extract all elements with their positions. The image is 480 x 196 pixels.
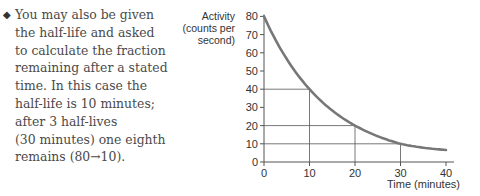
x-axis-title: Time (minutes)	[387, 178, 460, 190]
y-tick-label: 80	[246, 10, 258, 22]
decay-chart: 01020304050607080010203040	[0, 0, 480, 196]
y-tick-label: 20	[246, 120, 258, 132]
x-tick-label: 0	[261, 167, 267, 179]
guide-line	[264, 144, 401, 162]
y-tick-label: 40	[246, 83, 258, 95]
y-tick-label: 30	[246, 101, 258, 113]
y-tick-label: 50	[246, 65, 258, 77]
y-tick-label: 10	[246, 138, 258, 150]
y-tick-label: 0	[252, 156, 258, 168]
y-tick-label: 60	[246, 47, 258, 59]
x-tick-label: 10	[303, 167, 315, 179]
x-tick-label: 20	[349, 167, 361, 179]
y-tick-label: 70	[246, 29, 258, 41]
